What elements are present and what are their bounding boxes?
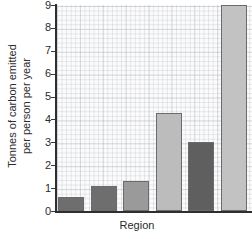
bar [156, 113, 182, 211]
y-axis-tick-label: 6 [38, 68, 51, 79]
y-axis-tick-mark [51, 5, 55, 6]
y-axis-tick-mark [51, 142, 55, 143]
y-axis-tick-labels: 0123456789 [38, 0, 51, 218]
y-axis-title-line-1: Tonnes of carbon emitted [6, 44, 18, 168]
bar [91, 186, 117, 211]
bar [188, 142, 214, 211]
x-axis-title: Region [57, 219, 217, 232]
y-axis-tick-label: 1 [38, 183, 51, 194]
y-axis-tick-label: 3 [38, 137, 51, 148]
y-axis-tick-mark [51, 165, 55, 166]
y-axis-title: Tonnes of carbon emitted per person per … [0, 0, 38, 212]
y-axis-tick-mark [51, 211, 55, 212]
x-axis-line [55, 211, 252, 213]
y-axis-tick-label: 8 [38, 22, 51, 33]
y-axis-tick-mark [51, 119, 55, 120]
y-axis-tick-label: 0 [38, 206, 51, 217]
y-axis-tick-label: 9 [38, 0, 51, 11]
bar [221, 5, 247, 211]
y-axis-tick-mark [51, 97, 55, 98]
bar-chart: Tonnes of carbon emitted per person per … [0, 0, 252, 239]
plot-area [57, 5, 252, 211]
y-axis-tick-label: 7 [38, 45, 51, 56]
y-axis-tick-label: 2 [38, 160, 51, 171]
y-axis-tick-mark [51, 188, 55, 189]
y-axis-tick-mark [51, 28, 55, 29]
bar [123, 181, 149, 211]
y-axis-title-line-2: per person per year [19, 44, 33, 168]
y-axis-tick-label: 4 [38, 114, 51, 125]
y-axis-tick-label: 5 [38, 91, 51, 102]
y-axis-tick-mark [51, 51, 55, 52]
y-axis-tick-mark [51, 74, 55, 75]
bar [58, 197, 84, 211]
